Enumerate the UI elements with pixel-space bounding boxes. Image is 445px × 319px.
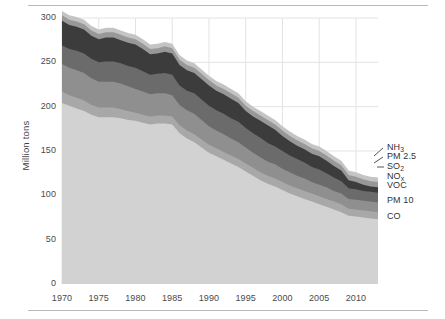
- y-tick-label: 0: [30, 278, 56, 288]
- y-axis-title: Million tons: [20, 101, 31, 191]
- y-tick-label: 50: [30, 234, 56, 244]
- y-tick-label: 200: [30, 101, 56, 111]
- x-tick-label: 2005: [299, 293, 339, 303]
- legend-item-pm-2.5: PM 2.5: [387, 152, 416, 161]
- y-tick-label: 150: [30, 145, 56, 155]
- x-tick-label: 1985: [152, 293, 192, 303]
- x-tick-label: 1970: [42, 293, 82, 303]
- stacked-area-chart: [0, 0, 445, 319]
- y-tick-label: 300: [30, 12, 56, 22]
- legend-item-pm-10: PM 10: [387, 196, 414, 205]
- x-tick-label: 1990: [189, 293, 229, 303]
- x-tick-label: 2000: [262, 293, 302, 303]
- x-tick-label: 2010: [336, 293, 376, 303]
- x-tick-label: 1995: [226, 293, 266, 303]
- legend-item-co: CO: [387, 212, 401, 221]
- y-tick-label: 100: [30, 189, 56, 199]
- legend-item-so2: SO2: [387, 162, 404, 171]
- leader-line: [374, 157, 383, 163]
- series-areas: [62, 11, 378, 284]
- chart-area: [0, 0, 445, 319]
- x-tick-label: 1980: [115, 293, 155, 303]
- y-tick-label: 250: [30, 56, 56, 66]
- figure: Million tons 300250200150100500 19701975…: [0, 0, 445, 319]
- leader-line: [374, 148, 383, 156]
- legend-item-voc: VOC: [387, 181, 407, 190]
- x-tick-label: 1975: [79, 293, 119, 303]
